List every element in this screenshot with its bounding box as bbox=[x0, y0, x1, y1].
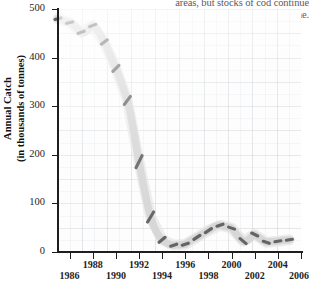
cod-catch-chart-figure: areas, but stocks of cod continue to dec… bbox=[0, 0, 309, 283]
x-tick-label-2004: 2004 bbox=[268, 259, 288, 270]
x-tick-label-1996: 1996 bbox=[175, 259, 195, 270]
x-tick-1996 bbox=[185, 252, 186, 259]
x-tick-2002 bbox=[255, 252, 256, 259]
x-tick-2000 bbox=[232, 252, 233, 259]
x-tick-label-1994: 1994 bbox=[152, 270, 172, 281]
caption-line-1: areas, but stocks of cod continue bbox=[118, 0, 309, 9]
x-tick-label-1990: 1990 bbox=[106, 270, 126, 281]
plot-area bbox=[58, 9, 301, 252]
x-tick-1998 bbox=[208, 252, 209, 259]
x-tick-1986 bbox=[70, 252, 71, 259]
y-tick-label-500: 500 bbox=[5, 2, 45, 13]
x-axis-line bbox=[57, 251, 303, 253]
y-tick-label-100: 100 bbox=[5, 196, 45, 207]
y-tick-label-0: 0 bbox=[5, 245, 45, 256]
x-tick-label-1992: 1992 bbox=[129, 259, 149, 270]
y-tick-label-400: 400 bbox=[5, 51, 45, 62]
x-tick-label-2002: 2002 bbox=[245, 270, 265, 281]
y-tick-label-200: 200 bbox=[5, 148, 45, 159]
series-band-soft bbox=[58, 19, 289, 246]
x-tick-label-1986: 1986 bbox=[60, 270, 80, 281]
x-tick-label-1988: 1988 bbox=[83, 259, 103, 270]
catch-series bbox=[58, 9, 301, 252]
x-tick-2004 bbox=[278, 252, 279, 259]
series-band bbox=[58, 19, 289, 246]
y-tick-label-300: 300 bbox=[5, 99, 45, 110]
series-markers bbox=[55, 18, 292, 246]
x-tick-1994 bbox=[162, 252, 163, 259]
x-tick-1990 bbox=[116, 252, 117, 259]
y-axis-line bbox=[57, 8, 59, 253]
x-tick-2006 bbox=[301, 252, 302, 259]
x-tick-label-1998: 1998 bbox=[198, 270, 218, 281]
x-tick-1992 bbox=[139, 252, 140, 259]
x-tick-label-2006: 2006 bbox=[289, 270, 309, 281]
x-tick-1988 bbox=[93, 252, 94, 259]
x-tick-label-2000: 2000 bbox=[222, 259, 242, 270]
